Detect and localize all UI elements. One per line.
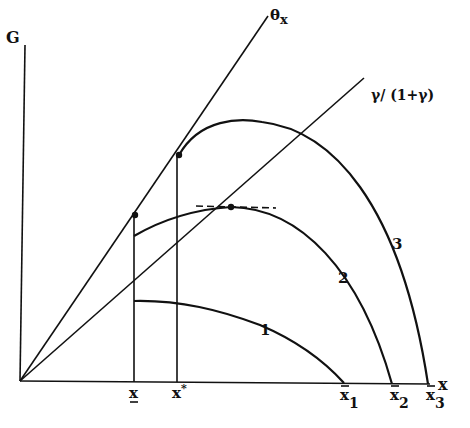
y-axis [20, 45, 25, 381]
xbar2-label: x2 [390, 386, 409, 411]
curve-2-label: 2 [338, 269, 348, 287]
xbar1-label: x1 [340, 386, 359, 411]
gamma-label: γ/ (1+γ) [371, 87, 434, 103]
y-axis-label: G [6, 28, 20, 47]
svg-text:x*: x* [172, 382, 187, 402]
gamma-ray [20, 78, 364, 381]
curve-3-label: 3 [392, 235, 402, 253]
theta-label: θx [270, 6, 288, 27]
diagram-canvas: G x θx γ/ (1+γ) 1 2 3 x x* x1 x2 x3 [0, 0, 470, 428]
x-axis-label: x [438, 375, 448, 394]
x-low-label: x [129, 384, 139, 402]
point-theta-x-low [132, 212, 138, 218]
point-theta-x-star [176, 152, 182, 158]
curve-2 [134, 207, 392, 384]
svg-text:x2: x2 [390, 386, 409, 411]
curve-1 [134, 301, 344, 383]
curve-1-label: 1 [260, 321, 270, 339]
point-tangency [228, 204, 234, 210]
x-star-label: x* [172, 382, 187, 402]
curve-3 [179, 120, 428, 384]
svg-text:x1: x1 [340, 386, 359, 411]
theta-ray [20, 16, 268, 381]
svg-text:x: x [129, 384, 139, 402]
x-axis [20, 381, 430, 384]
